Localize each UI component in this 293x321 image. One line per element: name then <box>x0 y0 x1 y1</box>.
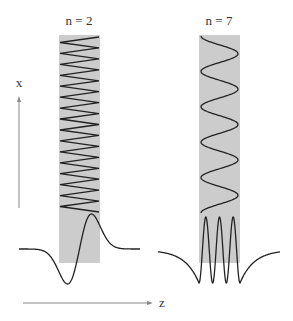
panel-label-n2: n = 2 <box>66 13 93 28</box>
core-column-n7 <box>199 35 240 263</box>
waveguide-modes-diagram: n = 2 n = 7 x z <box>0 0 293 321</box>
z-axis-label: z <box>159 295 165 310</box>
panel-label-n7: n = 7 <box>206 13 233 28</box>
x-axis-label: x <box>16 75 23 90</box>
x-axis-arrowhead-icon <box>17 96 21 102</box>
z-axis-arrowhead-icon <box>147 301 153 305</box>
